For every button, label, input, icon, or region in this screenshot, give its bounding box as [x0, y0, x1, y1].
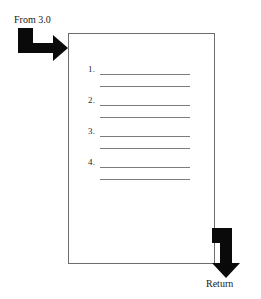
list-item: 2. [88, 98, 200, 129]
document-page: 1. 2. 3. 4. [68, 33, 215, 264]
list-item: 1. [88, 67, 200, 98]
writing-rule [100, 179, 190, 180]
page-flow-diagram: From 3.0 1. 2. 3. 4. [0, 0, 261, 299]
outgoing-arrow-label: Return [206, 278, 233, 290]
writing-rule [100, 105, 190, 106]
list-item-number: 1. [88, 64, 95, 75]
writing-rule [100, 86, 190, 87]
list-item-number: 3. [88, 126, 95, 137]
writing-rule [100, 136, 190, 137]
writing-rule [100, 117, 190, 118]
writing-rule [100, 148, 190, 149]
writing-rule [100, 167, 190, 168]
list-item: 4. [88, 160, 200, 191]
numbered-list: 1. 2. 3. 4. [88, 67, 200, 191]
list-item-number: 2. [88, 95, 95, 106]
list-item-number: 4. [88, 157, 95, 168]
list-item: 3. [88, 129, 200, 160]
writing-rule [100, 74, 190, 75]
